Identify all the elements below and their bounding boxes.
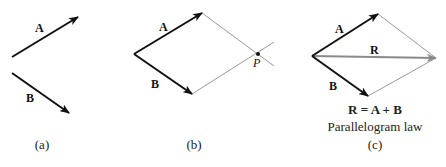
caption-b: (b): [186, 137, 201, 153]
vector-b-arrow: [134, 54, 192, 94]
caption-a: (a): [35, 137, 49, 153]
vector-b-arrow: [312, 56, 368, 96]
vector-a-arrow: [312, 14, 378, 56]
vector-b-label: B: [151, 77, 159, 92]
caption-c: (c): [368, 137, 382, 153]
vector-b-label: B: [26, 91, 34, 106]
vector-a-label: A: [159, 20, 168, 35]
construction-line-from-b: [192, 42, 274, 94]
vector-a-arrow: [12, 17, 78, 57]
point-p-label: P: [253, 56, 260, 71]
panel-a: [12, 17, 78, 113]
resultant-r-label: R: [370, 43, 379, 58]
vector-b-label: B: [329, 79, 337, 94]
vector-a-arrow: [134, 13, 202, 54]
vector-b-arrow: [12, 73, 69, 113]
construction-line-from-a: [202, 13, 274, 66]
vector-a-label: A: [335, 22, 344, 37]
construction-line-top: [378, 14, 436, 58]
vector-a-label: A: [35, 21, 44, 36]
construction-line-bottom: [368, 58, 436, 96]
equation: R = A + B: [348, 102, 402, 118]
law-caption: Parallelogram law: [328, 119, 423, 135]
